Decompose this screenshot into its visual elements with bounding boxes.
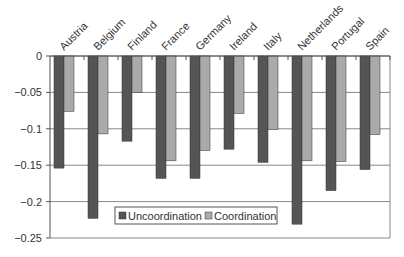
category-label-austria: Austria: [57, 19, 90, 52]
bar-uncoordination-germany: [190, 56, 200, 178]
legend-label-coordination: Coordination: [214, 210, 276, 222]
bar-uncoordination-france: [156, 56, 166, 178]
bar-uncoordination-italy: [258, 56, 268, 162]
bar-uncoordination-finland: [122, 56, 132, 141]
bar-coordination-germany: [200, 56, 210, 151]
y-axis-ticks: 0−0.05−0.1−0.15−0.2−0.25: [14, 50, 50, 244]
bar-uncoordination-netherlands: [292, 56, 302, 224]
y-tick-label: −0.1: [20, 123, 42, 135]
category-label-italy: Italy: [261, 29, 284, 52]
bar-chart: 0−0.05−0.1−0.15−0.2−0.25 AustriaBelgiumF…: [0, 0, 404, 257]
bar-coordination-finland: [132, 56, 142, 92]
bar-uncoordination-spain: [360, 56, 370, 170]
bars: [54, 56, 380, 224]
bar-uncoordination-belgium: [88, 56, 98, 218]
y-tick-label: −0.2: [20, 196, 42, 208]
legend-label-uncoordination: Uncoordination: [128, 210, 202, 222]
x-axis-category-labels: AustriaBelgiumFinlandFranceGermanyIrelan…: [57, 2, 391, 53]
bar-coordination-italy: [268, 56, 278, 130]
category-label-ireland: Ireland: [227, 20, 259, 52]
legend: UncoordinationCoordination: [115, 207, 277, 224]
bar-coordination-austria: [64, 56, 74, 111]
category-label-germany: Germany: [193, 12, 234, 53]
bar-coordination-france: [166, 56, 176, 161]
legend-swatch-coordination: [205, 212, 212, 219]
y-tick-label: −0.05: [14, 86, 42, 98]
bar-coordination-belgium: [98, 56, 108, 134]
bar-coordination-netherlands: [302, 56, 312, 161]
bar-uncoordination-portugal: [326, 56, 336, 191]
y-tick-label: 0: [36, 50, 42, 62]
y-tick-label: −0.25: [14, 232, 42, 244]
category-label-belgium: Belgium: [91, 16, 128, 53]
bar-uncoordination-ireland: [224, 56, 234, 149]
bar-coordination-portugal: [336, 56, 346, 162]
category-label-france: France: [159, 20, 192, 53]
bar-coordination-ireland: [234, 56, 244, 114]
category-label-finland: Finland: [125, 18, 159, 52]
category-label-spain: Spain: [363, 24, 391, 52]
legend-swatch-uncoordination: [119, 212, 126, 219]
bar-coordination-spain: [370, 56, 380, 135]
bar-uncoordination-austria: [54, 56, 64, 168]
y-tick-label: −0.15: [14, 159, 42, 171]
